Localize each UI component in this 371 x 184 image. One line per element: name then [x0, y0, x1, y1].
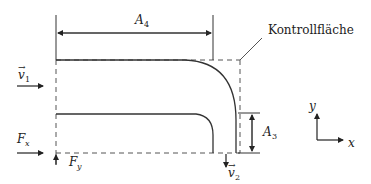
- svg-text:A: A: [134, 13, 144, 27]
- label-fy: F y: [68, 155, 82, 171]
- svg-text:2: 2: [235, 173, 240, 182]
- coordinate-axes: [317, 114, 343, 140]
- pipe-inner-wall: [56, 114, 213, 153]
- label-a3: A 3: [262, 125, 277, 141]
- svg-text:v: v: [18, 68, 25, 82]
- axis-y-label: y: [308, 99, 316, 113]
- pipe-bend-control-volume-diagram: Kontrollfläche A 4 A 3 → v 1 F x F y → v…: [0, 0, 371, 184]
- svg-text:1: 1: [25, 75, 30, 84]
- label-v1: → v 1: [18, 62, 30, 84]
- control-surface-leader: [240, 38, 262, 60]
- label-a4: A 4: [134, 13, 149, 29]
- svg-text:v: v: [228, 166, 235, 180]
- pipe-outer-wall: [56, 60, 236, 153]
- svg-text:3: 3: [272, 132, 277, 141]
- label-v2: → v 2: [228, 160, 240, 182]
- svg-text:A: A: [262, 125, 272, 139]
- label-fx: F x: [16, 132, 30, 148]
- svg-text:x: x: [25, 139, 30, 148]
- svg-text:y: y: [76, 162, 82, 171]
- dimension-a3: [238, 113, 260, 153]
- svg-text:4: 4: [144, 20, 149, 29]
- axis-x-label: x: [348, 136, 355, 150]
- control-surface-label: Kontrollfläche: [268, 23, 354, 37]
